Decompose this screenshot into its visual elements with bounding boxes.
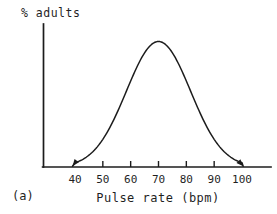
tick-label-100: 100	[232, 173, 252, 186]
panel-label: (a)	[12, 189, 34, 203]
distribution-curve-path	[73, 42, 244, 167]
distribution-curve	[73, 42, 244, 167]
tick-label-70: 70	[152, 173, 165, 186]
tick-label-50: 50	[96, 173, 109, 186]
tick-label-40: 40	[68, 173, 81, 186]
axes	[43, 24, 271, 167]
tick-label-60: 60	[124, 173, 137, 186]
x-axis-label: Pulse rate (bpm)	[96, 191, 220, 205]
y-axis-label: % adults	[21, 6, 80, 20]
curve-arrowhead-left	[73, 159, 79, 166]
x-axis-ticks: 405060708090100	[68, 161, 252, 186]
pulse-rate-distribution-chart: % adults 405060708090100 Pulse rate (bpm…	[0, 0, 277, 214]
pulse-rate-distribution-figure: % adults 405060708090100 Pulse rate (bpm…	[0, 0, 277, 214]
tick-label-80: 80	[180, 173, 193, 186]
tick-label-90: 90	[208, 173, 221, 186]
